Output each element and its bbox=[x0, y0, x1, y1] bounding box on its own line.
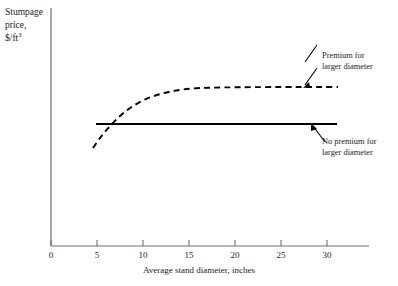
chart-figure: Stumpage price, $/ft3 0 5 bbox=[0, 0, 398, 286]
x-tick-label-25: 25 bbox=[269, 250, 293, 260]
x-tick-label-30: 30 bbox=[315, 250, 339, 260]
x-tick-label-20: 20 bbox=[223, 250, 247, 260]
premium-annotation-line1: Premium for bbox=[322, 50, 373, 61]
premium-annotation: Premium for larger diameter bbox=[322, 50, 373, 73]
premium-annotation-line2: larger diameter bbox=[322, 61, 373, 72]
premium-annotation-leader-upper bbox=[305, 45, 317, 62]
x-tick-label-5: 5 bbox=[85, 250, 109, 260]
series-premium-curve bbox=[93, 87, 338, 148]
no-premium-annotation-line2: larger diameter bbox=[322, 147, 376, 158]
premium-annotation-leader-lower bbox=[305, 68, 317, 85]
x-axis-label: Average stand diameter, inches bbox=[0, 265, 398, 276]
x-tick-label-0: 0 bbox=[39, 250, 63, 260]
no-premium-annotation-line1: No premium for bbox=[322, 136, 376, 147]
x-tick-label-15: 15 bbox=[177, 250, 201, 260]
x-tick-label-10: 10 bbox=[131, 250, 155, 260]
x-axis-ticks bbox=[51, 240, 327, 246]
no-premium-annotation: No premium for larger diameter bbox=[322, 136, 376, 159]
